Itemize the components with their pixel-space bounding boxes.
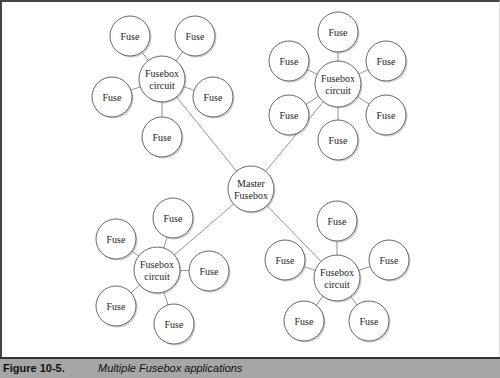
fuse-node: Fuse [269,95,311,137]
figure-number: Figure 10-5. [3,359,95,378]
fuse-node: Fuse [193,77,235,119]
svg-text:Fuse: Fuse [276,255,295,266]
fuse-node: Fuse [366,95,408,137]
svg-text:Fuse: Fuse [380,255,399,266]
svg-text:circuit: circuit [144,271,170,282]
fuse-node: Fuse [269,41,311,83]
master-fusebox-node: MasterFusebox [228,166,276,214]
svg-text:Fuse: Fuse [103,92,122,103]
fuse-node: Fuse [92,77,134,119]
svg-text:circuit: circuit [149,80,175,91]
svg-text:Fuse: Fuse [107,301,126,312]
svg-text:Fuse: Fuse [164,213,183,224]
figure: MasterFuseboxFuseboxcircuitFuseFuseFuseF… [0,0,500,378]
svg-text:Fuse: Fuse [186,31,205,42]
svg-text:Fuse: Fuse [328,216,347,227]
svg-text:Fusebox: Fusebox [145,68,179,79]
fuse-node: Fuse [366,41,408,83]
svg-text:circuit: circuit [325,85,351,96]
svg-text:Fuse: Fuse [153,132,172,143]
fusebox-circuit-node-top-right: Fuseboxcircuit [315,61,363,109]
fuse-node: Fuse [317,201,359,243]
svg-text:Fuse: Fuse [280,110,299,121]
fuse-node: Fuse [154,304,196,346]
fuse-node: Fuse [175,16,217,58]
svg-text:Fusebox: Fusebox [140,259,174,270]
svg-text:Fuse: Fuse [377,110,396,121]
fuse-node: Fuse [369,240,411,282]
svg-text:Fuse: Fuse [329,135,348,146]
fuse-node: Fuse [349,301,391,343]
fuse-node: Fuse [318,120,360,162]
svg-text:Fusebox: Fusebox [234,190,268,201]
fuse-node: Fuse [284,301,326,343]
fuse-node: Fuse [189,251,231,293]
svg-text:Fuse: Fuse [121,31,140,42]
fuse-node: Fuse [142,117,184,159]
figure-caption: Figure 10-5. Multiple Fusebox applicatio… [0,357,500,378]
fuse-node: Fuse [318,12,360,54]
svg-text:Fuse: Fuse [280,56,299,67]
fusebox-circuit-node-top-left: Fuseboxcircuit [139,56,187,104]
svg-text:circuit: circuit [324,279,350,290]
svg-text:Fuse: Fuse [204,92,223,103]
figure-title: Multiple Fusebox applications [98,362,242,374]
svg-text:Fuse: Fuse [107,234,126,245]
fuse-node: Fuse [96,219,138,261]
svg-text:Fusebox: Fusebox [321,73,355,84]
svg-text:Master: Master [237,178,265,189]
fusebox-circuit-node-bottom-left: Fuseboxcircuit [134,247,182,295]
svg-text:Fuse: Fuse [165,319,184,330]
fuse-node: Fuse [265,240,307,282]
svg-text:Fuse: Fuse [295,316,314,327]
svg-text:Fuse: Fuse [200,266,219,277]
svg-text:Fuse: Fuse [329,27,348,38]
svg-text:Fuse: Fuse [360,316,379,327]
svg-text:Fuse: Fuse [377,56,396,67]
fusebox-circuit-node-bottom-right: Fuseboxcircuit [314,255,362,303]
svg-text:Fusebox: Fusebox [320,267,354,278]
fusebox-diagram: MasterFuseboxFuseboxcircuitFuseFuseFuseF… [0,0,500,357]
fuse-node: Fuse [153,198,195,240]
fuse-node: Fuse [110,16,152,58]
